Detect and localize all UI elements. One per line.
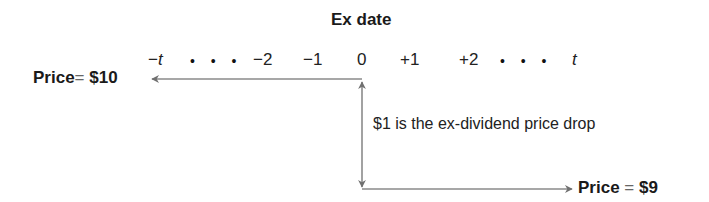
arrows (0, 0, 709, 202)
